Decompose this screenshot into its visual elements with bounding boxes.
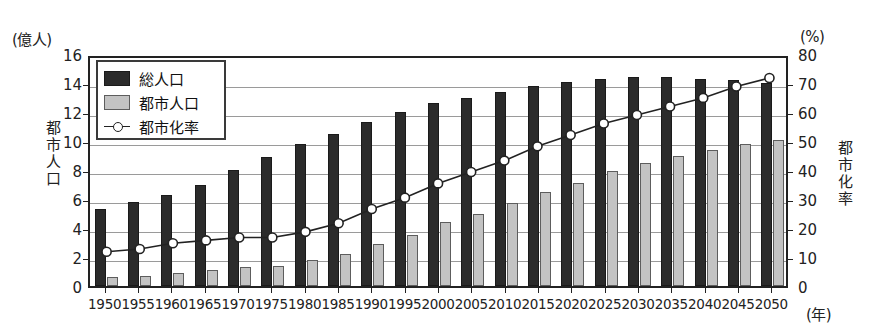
x-tick-mark <box>471 288 472 293</box>
x-tick-mark <box>505 288 506 293</box>
x-tick-mark <box>738 288 739 293</box>
y2-tick-label: 70 <box>798 76 828 94</box>
y-tick-label: 12 <box>52 105 82 123</box>
x-tick-mark <box>405 288 406 293</box>
legend-item: 都市人口 <box>104 90 218 114</box>
line-marker <box>268 233 277 242</box>
x-tick-mark <box>305 288 306 293</box>
line-marker <box>699 93 708 102</box>
x-axis-unit: (年) <box>806 303 831 324</box>
y-tick-label: 10 <box>52 134 82 152</box>
y-tick-label: 0 <box>52 279 82 297</box>
x-tick-mark <box>338 288 339 293</box>
y-tick-mark <box>83 259 89 260</box>
line-marker <box>334 219 343 228</box>
y-tick-mark <box>83 230 89 231</box>
x-tick-mark <box>171 288 172 293</box>
legend-item: 総人口 <box>104 66 218 90</box>
legend-swatch-total-population-icon <box>104 71 130 86</box>
y2-tick-mark <box>787 143 793 144</box>
y2-tick-label: 60 <box>798 105 828 123</box>
line-marker <box>500 156 509 165</box>
y2-tick-mark <box>787 114 793 115</box>
line-marker <box>168 239 177 248</box>
x-tick-mark <box>105 288 106 293</box>
y-tick-mark <box>83 143 89 144</box>
x-tick-mark <box>205 288 206 293</box>
x-tick-mark <box>271 288 272 293</box>
y-tick-label: 14 <box>52 76 82 94</box>
y2-tick-label: 20 <box>798 221 828 239</box>
legend-label: 都市人口 <box>139 92 199 113</box>
line-marker <box>765 73 774 82</box>
chart-figure: (億人) (%) (年) 都市人口 都市化率 0246810121416 010… <box>0 0 872 333</box>
line-marker <box>102 247 111 256</box>
y-tick-mark <box>83 172 89 173</box>
y2-tick-mark <box>787 172 793 173</box>
line-marker <box>566 130 575 139</box>
line-marker <box>632 110 641 119</box>
y2-tick-mark <box>787 230 793 231</box>
line-marker <box>135 244 144 253</box>
y-tick-label: 16 <box>52 47 82 65</box>
x-tick-mark <box>605 288 606 293</box>
line-marker <box>599 119 608 128</box>
line-marker <box>533 142 542 151</box>
y2-tick-mark <box>787 259 793 260</box>
y-tick-mark <box>83 201 89 202</box>
line-marker <box>467 167 476 176</box>
left-axis-unit: (億人) <box>12 28 52 49</box>
y2-tick-label: 30 <box>798 192 828 210</box>
line-marker <box>367 205 376 214</box>
x-tick-mark <box>438 288 439 293</box>
chart-legend: 総人口都市人口都市化率 <box>96 60 226 140</box>
y-tick-mark <box>83 114 89 115</box>
line-marker <box>201 236 210 245</box>
legend-label: 都市化率 <box>139 116 199 137</box>
legend-swatch-urban-population-icon <box>104 95 130 110</box>
x-tick-mark <box>538 288 539 293</box>
x-tick-mark <box>238 288 239 293</box>
y2-tick-label: 10 <box>798 250 828 268</box>
x-tick-mark <box>571 288 572 293</box>
y-tick-label: 6 <box>52 192 82 210</box>
x-tick-label: 2050 <box>748 296 794 312</box>
y2-tick-label: 80 <box>798 47 828 65</box>
right-axis-title: 都市化率 <box>836 140 854 208</box>
y2-tick-label: 40 <box>798 163 828 181</box>
y2-tick-mark <box>787 85 793 86</box>
legend-item: 都市化率 <box>104 114 218 138</box>
line-marker <box>665 102 674 111</box>
x-tick-mark <box>638 288 639 293</box>
y2-tick-mark <box>787 201 793 202</box>
x-tick-mark <box>371 288 372 293</box>
line-marker <box>301 227 310 236</box>
y-tick-label: 4 <box>52 221 82 239</box>
y-tick-mark <box>83 85 89 86</box>
legend-swatch-urbanization-rate-icon <box>104 119 130 134</box>
y2-tick-label: 0 <box>798 279 828 297</box>
line-marker <box>732 82 741 91</box>
x-tick-mark <box>671 288 672 293</box>
x-tick-mark <box>771 288 772 293</box>
x-tick-mark <box>138 288 139 293</box>
y2-tick-label: 50 <box>798 134 828 152</box>
line-marker <box>235 233 244 242</box>
legend-label: 総人口 <box>139 68 184 89</box>
y-tick-label: 8 <box>52 163 82 181</box>
line-marker <box>433 179 442 188</box>
x-tick-mark <box>705 288 706 293</box>
y-tick-label: 2 <box>52 250 82 268</box>
right-axis-unit: (%) <box>800 28 824 46</box>
line-marker <box>400 193 409 202</box>
